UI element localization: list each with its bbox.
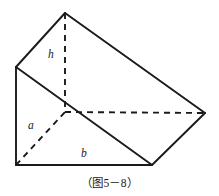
dimension-label-a: a: [28, 120, 34, 132]
solid-edge-group: [16, 13, 205, 165]
dimension-label-height: h: [48, 49, 54, 61]
edge-apex-to-right-far: [65, 13, 205, 113]
edge-diagonal-a-bottom-left-to-center: [16, 112, 65, 165]
edge-apex-to-left-upper: [16, 13, 65, 67]
figure-caption: （图5－8）: [0, 174, 219, 190]
dimension-label-b: b: [81, 148, 87, 160]
figure-container: h a b （图5－8）: [0, 0, 219, 196]
triangular-prism-diagram: [0, 0, 219, 196]
edge-bottom-right-to-right-far: [152, 113, 205, 165]
edge-center-to-right-far: [65, 112, 205, 113]
